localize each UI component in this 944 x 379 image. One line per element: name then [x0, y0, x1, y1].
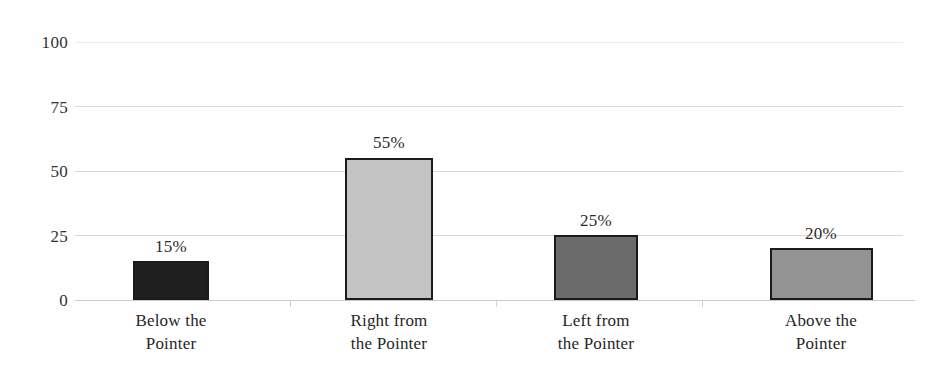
x-category-label-4: Above the Pointer	[741, 309, 901, 355]
x-category-label-2: Right from the Pointer	[309, 309, 469, 355]
gridline-75	[75, 106, 903, 107]
x-axis-tick-1	[290, 301, 291, 307]
gridline-100	[75, 42, 903, 43]
bar-value-label-1: 15%	[113, 238, 229, 255]
bar-value-label-4: 20%	[763, 225, 879, 242]
x-category-label-1-line1: Below the	[135, 311, 206, 330]
x-category-label-1: Below the Pointer	[91, 309, 251, 355]
y-axis: 100 75 50 25 0	[0, 0, 68, 379]
y-tick-label-25: 25	[8, 228, 68, 245]
y-tick-label-50: 50	[8, 163, 68, 180]
x-category-label-3: Left from the Pointer	[516, 309, 676, 355]
x-axis-tick-2	[496, 301, 497, 307]
y-tick-label-75: 75	[8, 99, 68, 116]
x-category-label-3-line2: the Pointer	[516, 332, 676, 355]
bar-below-the-pointer[interactable]	[133, 261, 209, 300]
bar-value-label-2: 55%	[331, 134, 447, 151]
x-axis-line	[75, 300, 915, 301]
bar-left-from-the-pointer[interactable]	[554, 235, 638, 300]
bar-above-the-pointer[interactable]	[770, 248, 873, 300]
x-category-label-4-line2: Pointer	[741, 332, 901, 355]
bar-right-from-the-pointer[interactable]	[345, 158, 433, 300]
x-category-label-1-line2: Pointer	[91, 332, 251, 355]
x-category-label-3-line1: Left from	[562, 311, 629, 330]
x-axis-tick-3	[702, 301, 703, 307]
bar-chart: 100 75 50 25 0 15% 55% 25% 20% Below the…	[0, 0, 944, 379]
gridline-50	[75, 171, 903, 172]
y-tick-label-0: 0	[8, 292, 68, 309]
x-category-label-2-line1: Right from	[350, 311, 427, 330]
x-category-label-2-line2: the Pointer	[309, 332, 469, 355]
bar-value-label-3: 25%	[538, 212, 654, 229]
y-tick-label-100: 100	[8, 34, 68, 51]
x-category-label-4-line1: Above the	[785, 311, 857, 330]
